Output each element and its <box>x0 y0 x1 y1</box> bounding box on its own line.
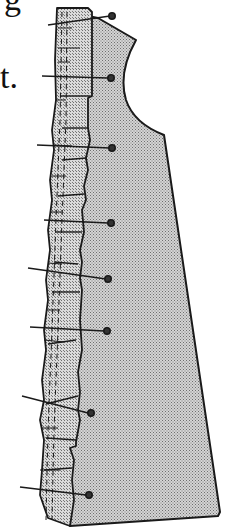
pattern-illustration <box>0 0 232 528</box>
